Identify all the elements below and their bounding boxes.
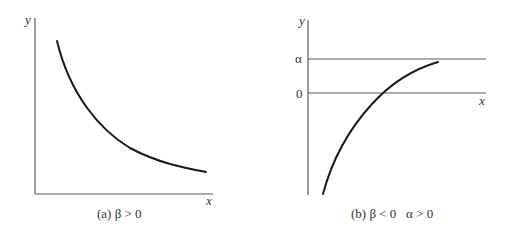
panel-a-x-label: x: [205, 193, 212, 208]
panel-b-y-label: y: [297, 13, 305, 28]
panel-b-alpha-label: α: [295, 51, 302, 66]
panel-a-y-label: y: [23, 12, 31, 27]
panel-b-curve: [323, 62, 438, 194]
panel-a: y x (a) β > 0: [23, 12, 213, 221]
panel-a-curve: [57, 41, 206, 172]
panel-b: y α 0 x (b) β < 0 α > 0: [295, 13, 486, 221]
panel-b-zero-label: 0: [296, 86, 303, 101]
panel-b-x-label: x: [478, 93, 485, 108]
panel-b-caption: (b) β < 0 α > 0: [351, 206, 433, 221]
diagram: y x (a) β > 0 y α 0 x (b) β < 0 α > 0: [0, 0, 509, 232]
panel-a-caption: (a) β > 0: [97, 206, 142, 221]
